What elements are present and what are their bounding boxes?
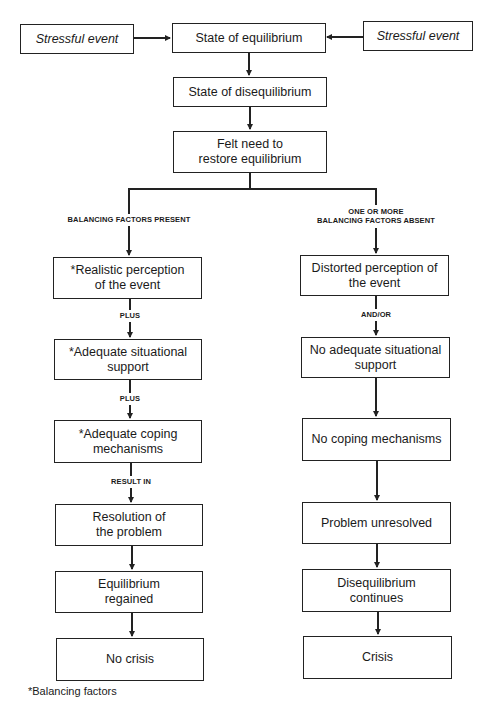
condition-absent-line2: BALANCING FACTORS ABSENT — [317, 216, 435, 227]
node-realistic-perception: *Realistic perception of the event — [53, 257, 202, 299]
node-felt-need: Felt need to restore equilibrium — [173, 131, 327, 173]
node-label: Disequilibrium continues — [331, 576, 422, 606]
footnote: *Balancing factors — [28, 685, 117, 697]
node-label: *Realistic perception of the event — [66, 263, 189, 293]
node-state-of-disequilibrium: State of disequilibrium — [173, 77, 327, 107]
node-problem-unresolved: Problem unresolved — [302, 502, 451, 544]
node-state-of-equilibrium: State of equilibrium — [172, 23, 326, 53]
node-no-crisis: No crisis — [56, 638, 204, 681]
node-stressful-event-right: Stressful event — [363, 21, 473, 51]
node-label: Crisis — [362, 650, 393, 665]
node-no-coping-mechanisms: No coping mechanisms — [302, 418, 451, 461]
condition-balancing-present: BALANCING FACTORS PRESENT — [68, 214, 191, 226]
node-label: Distorted perception of the event — [311, 261, 438, 291]
node-no-adequate-situational-support: No adequate situational support — [301, 337, 450, 378]
node-label: Equilibrium regained — [90, 577, 168, 607]
node-label: Stressful event — [377, 29, 460, 44]
node-crisis: Crisis — [303, 636, 452, 679]
node-equilibrium-regained: Equilibrium regained — [55, 571, 203, 613]
node-distorted-perception: Distorted perception of the event — [300, 255, 449, 296]
connector-plus-2: PLUS — [120, 393, 140, 405]
node-adequate-situational-support: *Adequate situational support — [54, 339, 202, 380]
node-resolution-of-problem: Resolution of the problem — [55, 504, 203, 546]
node-label: Stressful event — [36, 32, 119, 47]
node-label: No crisis — [106, 652, 154, 667]
connector-plus-1: PLUS — [120, 310, 140, 322]
node-disequilibrium-continues: Disequilibrium continues — [302, 569, 451, 612]
node-label: State of disequilibrium — [189, 85, 312, 100]
node-label: No adequate situational support — [308, 343, 443, 373]
connector-and-or: AND/OR — [361, 309, 391, 321]
connector-result-in: RESULT IN — [111, 476, 151, 488]
node-label: Problem unresolved — [321, 516, 432, 531]
node-label: State of equilibrium — [195, 31, 302, 46]
node-stressful-event-left: Stressful event — [20, 24, 134, 54]
node-label: Resolution of the problem — [86, 510, 172, 540]
node-label: No coping mechanisms — [312, 432, 442, 447]
node-label: *Adequate situational support — [65, 345, 191, 375]
node-adequate-coping-mechanisms: *Adequate coping mechanisms — [54, 420, 202, 463]
node-label: *Adequate coping mechanisms — [73, 427, 183, 457]
node-label: Felt need to restore equilibrium — [196, 137, 304, 167]
